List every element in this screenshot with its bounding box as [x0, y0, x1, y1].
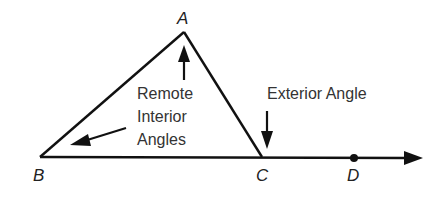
- point-label-a: A: [177, 10, 188, 27]
- side-ac: [184, 32, 262, 157]
- arrow-left-icon: [70, 134, 91, 146]
- exterior-angle-diagram: A B C D Remote Interior Angles Exterior …: [0, 0, 438, 199]
- point-label-c: C: [256, 167, 268, 184]
- remote-label-line2: Interior: [137, 109, 187, 125]
- arrow-to-b: [84, 128, 126, 141]
- remote-label-line3: Angles: [137, 132, 186, 148]
- remote-label-line1: Remote: [137, 86, 193, 102]
- point-label-d: D: [347, 167, 359, 184]
- exterior-angle-label: Exterior Angle: [267, 86, 367, 102]
- ray-arrowhead-icon: [404, 151, 423, 165]
- arrow-up-icon: [178, 45, 190, 62]
- point-label-b: B: [33, 167, 44, 184]
- arrow-down-icon: [261, 131, 273, 149]
- point-d-dot: [350, 154, 358, 162]
- diagram-lines: [0, 0, 438, 199]
